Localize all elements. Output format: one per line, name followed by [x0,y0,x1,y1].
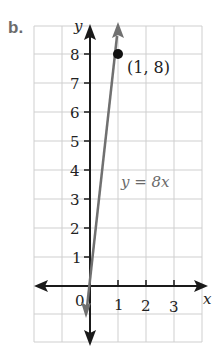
svg-text:8: 8 [70,46,80,64]
svg-text:6: 6 [70,104,80,122]
svg-text:3: 3 [169,298,179,316]
svg-text:7: 7 [70,75,80,93]
y-tick-labels: 8 7 6 5 4 3 2 1 [70,46,82,267]
x-axis [34,280,208,292]
svg-text:5: 5 [70,133,80,151]
graph: 8 7 6 5 4 3 2 1 0 1 2 3 y x (1, 8) y = 8… [0,0,220,352]
x-axis-label: x [203,290,212,308]
equation-label: y = 8x [120,173,170,191]
svg-text:3: 3 [70,191,80,209]
point-label: (1, 8) [127,58,170,77]
y-axis-label: y [73,17,83,35]
point-1-8 [113,49,123,59]
svg-text:4: 4 [70,162,80,180]
svg-text:1: 1 [114,296,124,314]
svg-text:1: 1 [72,249,82,267]
grid [34,26,202,342]
svg-text:2: 2 [141,297,151,315]
svg-text:2: 2 [70,220,80,238]
y-axis [84,24,96,346]
